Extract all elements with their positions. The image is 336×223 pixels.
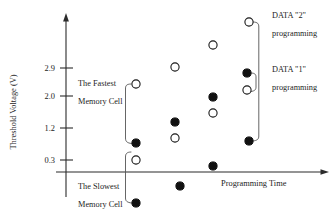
slowest-memory-cell-annotation: The Slowest Memory Cell	[78, 182, 123, 209]
fastest-annotation-line1: The Fastest	[78, 79, 117, 88]
data-point	[243, 69, 251, 77]
data-point	[132, 156, 140, 164]
data-point	[132, 80, 140, 88]
x-axis-arrowhead	[321, 169, 330, 175]
series-data1-lower-points	[132, 86, 251, 164]
legend-data2: DATA "2" programming	[272, 11, 317, 38]
legend-data2-line1: DATA "2"	[272, 11, 306, 20]
data-point	[209, 41, 217, 49]
data-point	[132, 139, 140, 147]
legend-data1: DATA "1" programming	[272, 65, 317, 92]
slowest-annotation-line1: The Slowest	[78, 182, 120, 191]
y-tick-label-3: 0.3	[45, 156, 55, 165]
y-axis-title: Threshold Voltage (V)	[9, 74, 18, 149]
bracket-data2-left	[126, 84, 132, 144]
x-axis-title: Programming Time	[221, 179, 287, 188]
legend-data1-line1: DATA "1"	[272, 65, 306, 74]
slowest-annotation-line2: Memory Cell	[78, 200, 123, 209]
data-point	[132, 199, 140, 207]
right-bracket-group	[251, 22, 259, 141]
data-point	[209, 162, 217, 170]
data-point	[171, 118, 179, 126]
data-point	[171, 134, 179, 142]
y-tick-label-1: 2.0	[45, 92, 55, 101]
scatter-plot-canvas: 2.9 2.0 1.2 0.3 Threshold Voltage (V) Pr…	[0, 0, 336, 223]
data-point	[209, 109, 217, 117]
left-bracket-group	[126, 84, 132, 203]
data-point	[245, 18, 253, 26]
chart-figure: 2.9 2.0 1.2 0.3 Threshold Voltage (V) Pr…	[0, 0, 336, 223]
y-tick-labels: 2.9 2.0 1.2 0.3	[45, 64, 55, 165]
y-tick-label-2: 1.2	[45, 124, 55, 133]
legend-data2-line2: programming	[272, 29, 317, 38]
data-point	[209, 93, 217, 101]
y-axis-arrowhead	[63, 13, 69, 22]
y-tick-label-0: 2.9	[45, 64, 55, 73]
data-point	[243, 86, 251, 94]
fastest-annotation-line2: Memory Cell	[78, 97, 123, 106]
legend-data1-line2: programming	[272, 83, 317, 92]
data-point	[171, 63, 179, 71]
data-point	[245, 137, 253, 145]
bracket-data1-right	[251, 73, 256, 92]
series-data2-points	[132, 18, 253, 88]
series-data1-upper-points	[132, 69, 251, 147]
data-point	[176, 182, 184, 190]
fastest-memory-cell-annotation: The Fastest Memory Cell	[78, 79, 123, 106]
bracket-data1-left	[126, 152, 132, 203]
